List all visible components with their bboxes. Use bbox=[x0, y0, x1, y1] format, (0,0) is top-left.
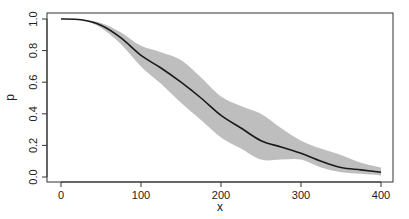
curve-line bbox=[61, 19, 381, 172]
x-axis-title: x bbox=[217, 200, 223, 214]
y-axis-title: p bbox=[3, 94, 17, 101]
series-line bbox=[61, 19, 381, 172]
y-tick-label: 0.0 bbox=[27, 169, 39, 184]
band-area bbox=[61, 19, 381, 175]
y-tick-label: 0.2 bbox=[27, 138, 39, 153]
y-tick-label: 0.6 bbox=[27, 75, 39, 90]
x-tick-label: 0 bbox=[58, 189, 64, 201]
x-tick-label: 300 bbox=[292, 189, 310, 201]
x-tick-label: 100 bbox=[132, 189, 150, 201]
line-chart: 0100200300400 0.00.20.40.60.81.0 x p bbox=[0, 0, 409, 219]
y-tick-label: 1.0 bbox=[27, 11, 39, 26]
confidence-band bbox=[61, 19, 381, 175]
x-axis: 0100200300400 bbox=[58, 182, 390, 201]
y-tick-label: 0.8 bbox=[27, 43, 39, 58]
y-tick-label: 0.4 bbox=[27, 106, 39, 121]
y-axis: 0.00.20.40.60.81.0 bbox=[27, 11, 47, 184]
x-tick-label: 400 bbox=[372, 189, 390, 201]
